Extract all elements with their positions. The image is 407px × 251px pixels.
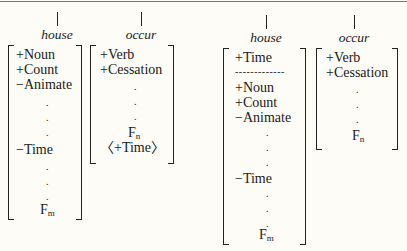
ellipsis-dot: . — [266, 143, 269, 153]
right-bracket — [168, 45, 174, 164]
feature-minus-time: −Time — [16, 142, 53, 157]
left-bracket — [8, 45, 14, 220]
ellipsis-dot: . — [46, 128, 49, 138]
feature-plus-noun: +Noun — [235, 80, 274, 95]
word-label-occur: occur — [339, 30, 370, 46]
feature-plus-verb: +Verb — [100, 47, 134, 62]
feature-plus-time: +Time — [235, 50, 272, 65]
tree-stem — [57, 12, 58, 26]
left-bracket — [316, 48, 322, 150]
tree-stem — [141, 12, 142, 26]
top-rule — [0, 1, 407, 2]
f-symbol: F — [259, 227, 267, 242]
f-symbol: F — [352, 128, 360, 143]
feature-plus-count: +Count — [16, 62, 58, 77]
tree-stem — [354, 15, 355, 29]
feature-matrix-house: +Noun +Count −Animate . . . −Time . . . … — [8, 45, 82, 220]
feature-minus-time: −Time — [235, 171, 272, 186]
ellipsis-dot: . — [46, 177, 49, 187]
ellipsis-dot: . — [134, 112, 137, 122]
dashed-separator: ------------- — [235, 66, 285, 77]
right-bracket — [392, 48, 398, 150]
word-label-house: house — [41, 27, 73, 43]
feature-matrix-occur: +Verb +Cessation . . . Fn 〈+Time〉 — [90, 45, 174, 164]
ellipsis-dot: . — [266, 128, 269, 138]
subscript-m: m — [48, 208, 55, 218]
f-symbol: F — [128, 125, 136, 140]
ellipsis-dot: . — [46, 162, 49, 172]
feature-plus-cessation: +Cessation — [100, 62, 162, 77]
tree-stem — [266, 15, 267, 29]
feature-f-n: Fn — [352, 128, 364, 147]
feature-matrix-occur: +Verb +Cessation . . . Fn — [316, 48, 398, 150]
feature-plus-verb: +Verb — [326, 50, 360, 65]
feature-minus-animate: −Animate — [235, 110, 291, 125]
ellipsis-dot: . — [46, 192, 49, 202]
word-label-occur: occur — [126, 27, 157, 43]
ellipsis-dot: . — [266, 158, 269, 168]
ellipsis-dot: . — [134, 97, 137, 107]
feature-matrix-house: +Time ------------- +Noun +Count −Animat… — [223, 48, 306, 245]
ellipsis-dot: . — [356, 100, 359, 110]
right-bracket — [300, 48, 306, 245]
ellipsis-dot: . — [356, 115, 359, 125]
ellipsis-dot: . — [266, 204, 269, 214]
ellipsis-dot: . — [266, 189, 269, 199]
subscript-m: m — [267, 233, 274, 243]
feature-plus-count: +Count — [235, 95, 277, 110]
subscript-n: n — [360, 134, 365, 144]
ellipsis-dot: . — [134, 82, 137, 92]
left-bracket — [90, 45, 96, 164]
feature-optional-plus-time: 〈+Time〉 — [100, 140, 165, 155]
left-bracket — [223, 48, 229, 245]
word-label-house: house — [250, 30, 282, 46]
ellipsis-dot: . — [46, 113, 49, 123]
feature-plus-cessation: +Cessation — [326, 65, 388, 80]
ellipsis-dot: . — [356, 85, 359, 95]
feature-plus-noun: +Noun — [16, 47, 55, 62]
f-symbol: F — [40, 202, 48, 217]
feature-f-m: Fm — [259, 227, 274, 246]
feature-f-m: Fm — [40, 202, 55, 221]
right-bracket — [76, 45, 82, 220]
ellipsis-dot: . — [46, 98, 49, 108]
feature-minus-animate: −Animate — [16, 77, 72, 92]
